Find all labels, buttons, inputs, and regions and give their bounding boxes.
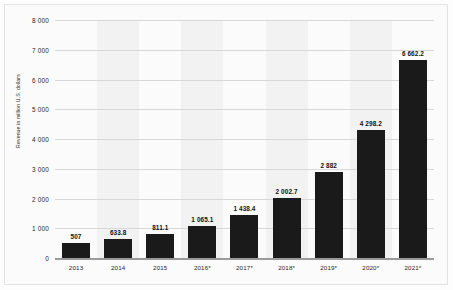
bar-value-label: 507 (71, 233, 82, 240)
bar-value-label: 1 438.4 (233, 205, 255, 212)
y-axis-tick-label: 1 000 (32, 225, 49, 232)
bar-value-label: 6 662.2 (402, 50, 424, 57)
plot-area: 01 0002 0003 0004 0005 0006 0007 0008 00… (55, 20, 434, 258)
bar[interactable] (146, 234, 174, 258)
bar-value-label: 1 065.1 (191, 216, 213, 223)
bar-group[interactable]: 633.82014 (97, 20, 139, 258)
bar-value-label: 2 882 (320, 162, 337, 169)
x-axis-tick-label: 2017* (236, 264, 253, 271)
bar-series: 5072013633.82014811.120151 065.12016*1 4… (55, 20, 434, 258)
y-axis-tick-label: 4 000 (32, 136, 49, 143)
bar-value-label: 4 298.2 (360, 120, 382, 127)
y-axis-tick-label: 3 000 (32, 165, 49, 172)
x-axis-tick-label: 2019* (320, 264, 337, 271)
y-axis-tick-label: 0 (45, 255, 49, 262)
y-axis-tick-label: 2 000 (32, 195, 49, 202)
y-axis-tick-label: 7 000 (32, 46, 49, 53)
x-axis-tick-label: 2016* (194, 264, 211, 271)
x-axis-tick-label: 2018* (278, 264, 295, 271)
bar[interactable] (399, 60, 427, 258)
bar[interactable] (104, 239, 132, 258)
y-axis-tick-label: 5 000 (32, 106, 49, 113)
bar-group[interactable]: 1 438.42017* (223, 20, 265, 258)
bar-group[interactable]: 811.12015 (139, 20, 181, 258)
bar[interactable] (62, 243, 90, 258)
y-axis-title: Revenue in million U.S. dollars (15, 51, 21, 171)
x-axis-tick-label: 2015 (153, 264, 167, 271)
bar-group[interactable]: 2 002.72018* (266, 20, 308, 258)
bar-group[interactable]: 4 298.22020* (350, 20, 392, 258)
y-axis-tick-label: 6 000 (32, 76, 49, 83)
bar-group[interactable]: 6 662.22021* (392, 20, 434, 258)
bar[interactable] (188, 226, 216, 258)
y-axis-tick-label: 8 000 (32, 17, 49, 24)
axis-baseline (55, 258, 434, 260)
x-axis-tick-label: 2014 (111, 264, 125, 271)
bar[interactable] (273, 198, 301, 258)
x-axis-tick-label: 2013 (69, 264, 83, 271)
bar-group[interactable]: 5072013 (55, 20, 97, 258)
bar-value-label: 2 002.7 (276, 188, 298, 195)
bar-value-label: 811.1 (152, 224, 168, 231)
bar-group[interactable]: 1 065.12016* (181, 20, 223, 258)
x-axis-tick-label: 2021* (404, 264, 421, 271)
x-axis-tick-label: 2020* (362, 264, 379, 271)
bar[interactable] (357, 130, 385, 258)
chart-container: Revenue in million U.S. dollars 01 0002 … (0, 0, 453, 290)
bar-group[interactable]: 2 8822019* (308, 20, 350, 258)
bar[interactable] (315, 172, 343, 258)
bar[interactable] (230, 215, 258, 258)
bar-value-label: 633.8 (110, 229, 127, 236)
